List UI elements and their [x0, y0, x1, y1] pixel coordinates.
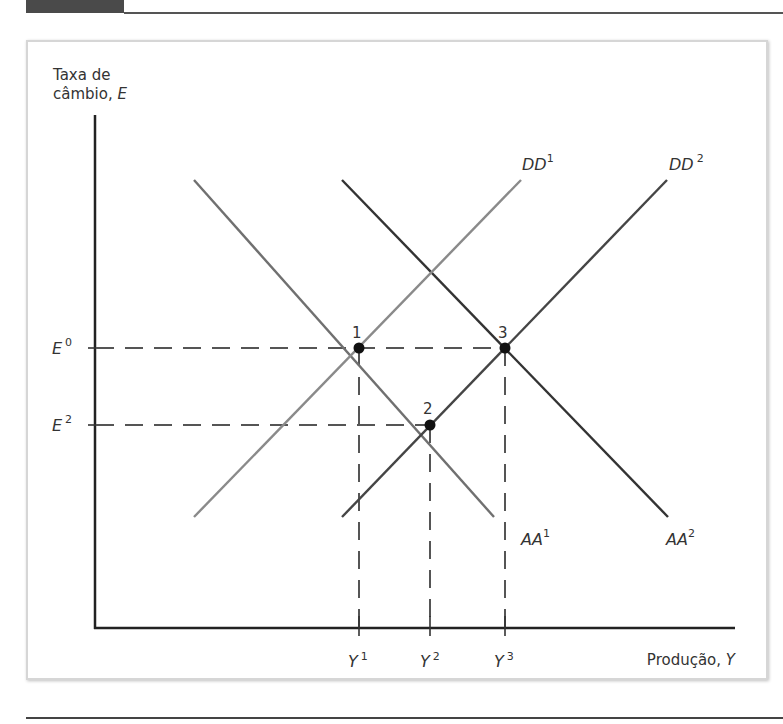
equilibrium-point-3 — [500, 343, 511, 354]
x-axis-label: Produção, Y — [647, 651, 737, 669]
y2-label: Y2 — [420, 650, 440, 671]
e0-label: E0 — [52, 336, 72, 358]
y1-label: Y1 — [348, 650, 368, 671]
y3-label: Y3 — [494, 650, 514, 671]
point-3-label: 3 — [498, 324, 508, 342]
aa-dd-diagram: Taxa de câmbio, E Produção, Y 1 2 3 DD1 … — [0, 0, 783, 724]
point-2-label: 2 — [423, 400, 433, 418]
point-1-label: 1 — [352, 324, 362, 342]
dd2-label: DD2 — [669, 152, 704, 174]
guide-lines — [96, 348, 505, 628]
equilibrium-point-2 — [425, 420, 436, 431]
aa2-label: AA2 — [665, 527, 695, 549]
equilibrium-point-1 — [354, 343, 365, 354]
aa1-label: AA1 — [520, 527, 550, 549]
dd1-label: DD1 — [522, 152, 554, 174]
y-axis-label-line2: câmbio, E — [53, 85, 127, 103]
e2-label: E2 — [52, 413, 72, 435]
y-axis-label-line1: Taxa de — [52, 66, 110, 84]
